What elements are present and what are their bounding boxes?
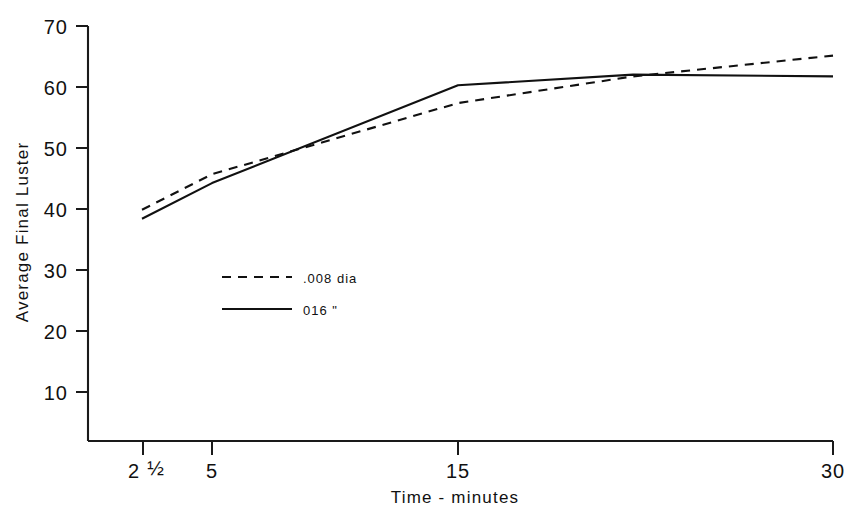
x-tick-label-15: 15 — [446, 460, 470, 482]
x-tick-label-5: 5 — [206, 460, 218, 482]
y-tick-label-20: 20 — [44, 321, 68, 343]
y-axis-title: Average Final Luster — [13, 142, 32, 323]
legend-label-008-dia: .008 dia — [303, 271, 357, 286]
y-tick-label-10: 10 — [44, 382, 68, 404]
legend-label-016: 016 " — [303, 303, 338, 318]
line-chart: 70 60 50 40 30 20 10 Average Final Luste… — [0, 0, 855, 509]
y-tick-label-60: 60 — [44, 77, 68, 99]
x-tick-label-30: 30 — [821, 460, 845, 482]
chart-figure: 70 60 50 40 30 20 10 Average Final Luste… — [0, 0, 855, 509]
x-axis-title: Time - minutes — [391, 488, 520, 507]
x-tick-label-2-fraction: ½ — [147, 457, 165, 479]
y-tick-label-50: 50 — [44, 138, 68, 160]
y-tick-label-30: 30 — [44, 260, 68, 282]
y-tick-label-40: 40 — [44, 199, 68, 221]
x-tick-label-2-whole: 2 — [128, 460, 140, 482]
y-tick-label-70: 70 — [44, 16, 68, 38]
